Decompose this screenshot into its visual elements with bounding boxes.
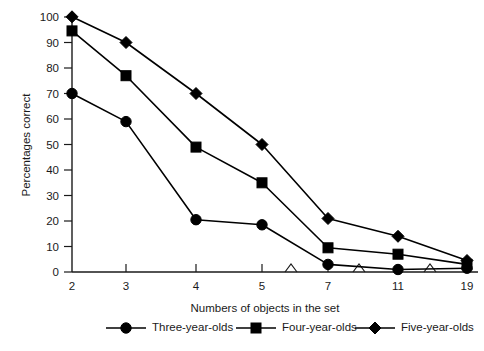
y-tick-label: 70 <box>46 88 59 100</box>
data-point-marker <box>191 215 201 225</box>
y-tick-label: 100 <box>40 11 59 23</box>
x-axis-title-text: Numbers of objects in the set <box>191 302 341 314</box>
legend-item-four-year-olds: Four-year-olds <box>236 321 357 333</box>
data-point-marker <box>121 71 131 81</box>
y-tick-label: 90 <box>46 37 59 49</box>
x-tick-label: 11 <box>392 280 404 292</box>
data-point-marker <box>191 142 201 152</box>
x-tick-label: 4 <box>193 280 200 292</box>
data-point-marker <box>323 259 333 269</box>
legend-label: Three-year-olds <box>152 321 233 333</box>
y-tick-label: 0 <box>53 266 59 278</box>
series-five-year-olds <box>66 11 473 267</box>
y-tick-label: 20 <box>46 215 59 227</box>
y-axis-title: Percentages correct <box>20 93 32 197</box>
circle-marker-icon <box>121 323 131 333</box>
axis-break-icon <box>353 264 365 272</box>
chart-figure: Percentages correct 0 10 20 30 40 50 60 … <box>0 0 484 351</box>
axis-break-icon <box>424 264 436 272</box>
y-tick-label: 30 <box>46 190 59 202</box>
x-tick-label: 3 <box>123 280 129 292</box>
y-axis-ticks: 0 10 20 30 40 50 60 70 80 90 100 <box>40 11 72 278</box>
legend-item-three-year-olds: Three-year-olds <box>106 321 233 333</box>
series-line-five-year-olds <box>72 17 467 261</box>
y-tick-label: 80 <box>46 62 59 74</box>
x-tick-label: 19 <box>461 280 474 292</box>
data-point-marker <box>257 178 267 188</box>
y-axis-title-text: Percentages correct <box>20 93 32 197</box>
x-tick-label: 5 <box>259 280 265 292</box>
legend-label: Five-year-olds <box>401 321 474 333</box>
data-point-marker <box>257 220 267 230</box>
data-point-marker <box>67 26 77 36</box>
legend-item-five-year-olds: Five-year-olds <box>355 321 474 334</box>
data-point-marker <box>66 11 78 23</box>
x-axis-ticks: 2 3 4 5 7 11 19 <box>69 264 474 292</box>
data-point-marker <box>462 263 472 273</box>
y-tick-label: 40 <box>46 164 59 176</box>
series-three-year-olds <box>67 88 472 274</box>
line-chart-canvas: Percentages correct 0 10 20 30 40 50 60 … <box>0 0 484 351</box>
data-point-marker <box>323 243 333 253</box>
data-point-marker <box>67 88 77 98</box>
data-point-marker <box>393 249 403 259</box>
data-point-marker <box>120 37 132 49</box>
data-point-marker <box>392 230 404 242</box>
y-tick-label: 10 <box>46 241 59 253</box>
legend-label: Four-year-olds <box>282 321 357 333</box>
x-tick-label: 2 <box>69 280 75 292</box>
x-tick-label: 7 <box>325 280 331 292</box>
y-tick-label: 60 <box>46 113 59 125</box>
chart-legend: Three-year-olds Four-year-olds Five-year… <box>106 321 474 334</box>
data-point-marker <box>393 264 403 274</box>
diamond-marker-icon <box>369 322 381 334</box>
axis-break-icon <box>285 264 297 272</box>
x-axis-break-marks <box>285 264 436 272</box>
y-tick-label: 50 <box>46 139 59 151</box>
data-point-marker <box>121 116 131 126</box>
series-four-year-olds <box>67 26 472 270</box>
square-marker-icon <box>251 323 261 333</box>
